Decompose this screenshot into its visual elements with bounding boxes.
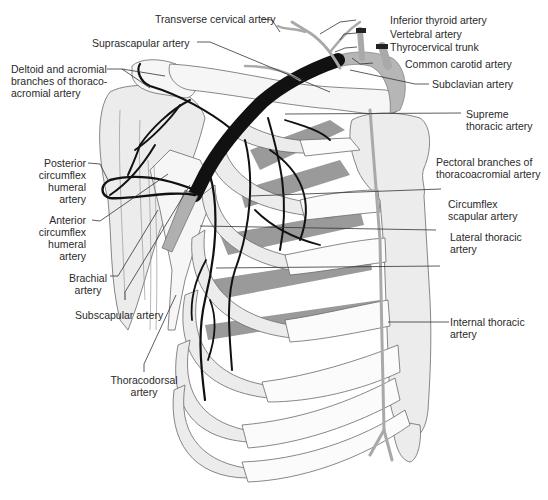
label-vertebral-artery: Vertebral artery <box>390 28 462 40</box>
label-anterior-circumflex-humeral-artery: Anterior circumflex humeral artery <box>28 214 86 262</box>
label-line: Pectoral branches of <box>436 156 540 168</box>
label-posterior-circumflex-humeral-artery: Posterior circumflex humeral artery <box>28 157 86 205</box>
label-thyrocervical-trunk: Thyrocervical trunk <box>390 41 479 53</box>
label-line: artery <box>28 250 86 262</box>
label-line: Internal thoracic <box>450 316 525 328</box>
label-line: artery <box>104 386 184 398</box>
label-line: circumflex <box>28 226 86 238</box>
label-pectoral-branches: Pectoral branches of thoracoacromial art… <box>436 156 540 180</box>
label-inferior-thyroid-artery: Inferior thyroid artery <box>390 14 487 26</box>
label-line: branches of thoraco- <box>11 75 107 87</box>
label-line: Circumflex <box>448 198 517 210</box>
label-line: artery <box>450 328 525 340</box>
label-subscapular-artery: Subscapular artery <box>75 309 163 321</box>
label-circumflex-scapular-artery: Circumflex scapular artery <box>448 198 517 222</box>
label-line: artery <box>450 243 522 255</box>
label-internal-thoracic-artery: Internal thoracic artery <box>450 316 525 340</box>
label-common-carotid-artery: Common carotid artery <box>405 58 512 70</box>
label-line: Supreme <box>466 108 533 120</box>
label-brachial-artery: Brachial artery <box>66 272 110 296</box>
label-line: Thoracodorsal <box>104 374 184 386</box>
label-line: Posterior <box>28 157 86 169</box>
label-line: scapular artery <box>448 210 517 222</box>
label-line: Brachial <box>66 272 110 284</box>
label-lateral-thoracic-artery: Lateral thoracic artery <box>450 231 522 255</box>
label-suprascapular-artery: Suprascapular artery <box>92 37 189 49</box>
label-line: Anterior <box>28 214 86 226</box>
label-subclavian-artery: Subclavian artery <box>432 78 513 90</box>
label-line: artery <box>28 193 86 205</box>
label-line: acromial artery <box>11 87 107 99</box>
label-line: humeral <box>28 181 86 193</box>
label-supreme-thoracic-artery: Supreme thoracic artery <box>466 108 533 132</box>
label-line: thoracic artery <box>466 120 533 132</box>
label-thoracodorsal-artery: Thoracodorsal artery <box>104 374 184 398</box>
label-line: thoracoacromial artery <box>436 168 540 180</box>
label-line: circumflex <box>28 169 86 181</box>
label-deltoid-acromial-branches: Deltoid and acromial branches of thoraco… <box>11 63 107 99</box>
label-line: Deltoid and acromial <box>11 63 107 75</box>
label-transverse-cervical-artery: Transverse cervical artery <box>155 13 275 25</box>
label-line: artery <box>66 284 110 296</box>
label-line: Lateral thoracic <box>450 231 522 243</box>
label-line: humeral <box>28 238 86 250</box>
